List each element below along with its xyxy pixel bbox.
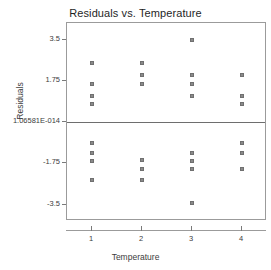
y-tick-mark [62,80,66,81]
y-tick-mark [62,121,66,122]
data-point [190,201,194,205]
x-tick-label: 4 [239,234,243,243]
zero-reference-line [67,122,265,123]
data-point [140,61,144,65]
data-point [240,167,244,171]
data-point [90,102,94,106]
y-tick-label: 1.75 [45,76,60,84]
y-tick-label: -3.5 [47,200,60,208]
data-point [140,82,144,86]
y-tick-mark [62,204,66,205]
data-point [140,178,144,182]
x-tick-mark [241,226,242,231]
y-tick-label: -1.75 [43,159,60,167]
data-point [190,151,194,155]
data-point [90,178,94,182]
data-point [90,141,94,145]
data-point [240,73,244,77]
data-point [190,73,194,77]
y-tick-mark [62,39,66,40]
data-point [90,94,94,98]
data-point [190,94,194,98]
data-point [240,151,244,155]
data-point [240,141,244,145]
x-tick-label: 2 [139,234,143,243]
plot-area [66,22,266,220]
data-point [90,61,94,65]
data-point [90,151,94,155]
x-tick-mark [191,226,192,231]
y-tick-mark [62,162,66,163]
data-point [240,94,244,98]
x-tick-label: 3 [189,234,193,243]
data-point [90,159,94,163]
x-tick-mark [141,226,142,231]
y-tick-label: 3.5 [50,35,60,43]
data-point [190,38,194,42]
data-point [190,159,194,163]
data-point [140,158,144,162]
y-tick-label: 1.06581E-014 [13,117,60,125]
x-axis-label: Temperature [0,252,271,262]
data-point [140,167,144,171]
data-point [190,167,194,171]
data-point [240,102,244,106]
x-tick-mark [91,226,92,231]
chart-title: Residuals vs. Temperature [0,7,271,19]
x-axis-line [66,230,266,231]
data-point [140,73,144,77]
data-point [90,82,94,86]
data-point [190,82,194,86]
residuals-scatter-chart: Residuals vs. Temperature Residuals Temp… [0,0,271,270]
x-tick-label: 1 [89,234,93,243]
